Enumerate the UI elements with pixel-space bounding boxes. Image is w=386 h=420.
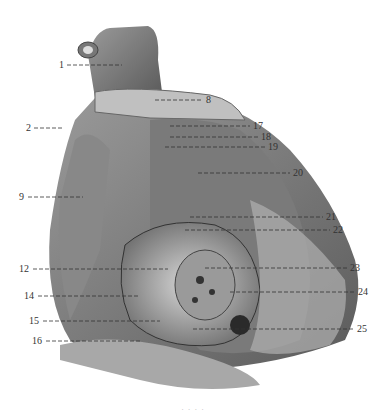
label-12: 12: [19, 264, 29, 274]
label-23: 23: [350, 263, 360, 273]
label-1: 1: [59, 60, 64, 70]
label-2: 2: [26, 123, 31, 133]
label-15: 15: [29, 316, 39, 326]
label-16: 16: [32, 336, 42, 346]
aorta: [88, 26, 162, 98]
heart-illustration: 1 2 8 9 12 14 15 16 17 18 19 20 21 22 23…: [0, 0, 386, 420]
label-9: 9: [19, 192, 24, 202]
label-19: 19: [268, 142, 278, 152]
label-25: 25: [357, 324, 367, 334]
label-8: 8: [206, 95, 211, 105]
label-17: 17: [253, 121, 263, 131]
heart-drawing: [0, 0, 386, 420]
label-14: 14: [24, 291, 34, 301]
label-24: 24: [358, 287, 368, 297]
figure-caption: · · · ·: [0, 405, 386, 414]
label-22: 22: [333, 225, 343, 235]
label-20: 20: [293, 168, 303, 178]
label-21: 21: [326, 212, 336, 222]
